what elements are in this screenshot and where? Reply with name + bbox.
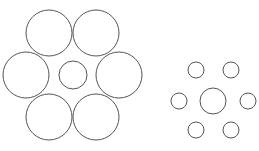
surround-circle — [223, 62, 239, 78]
surround-circle — [96, 52, 142, 98]
center-circle — [200, 88, 226, 114]
surround-circle — [171, 93, 187, 109]
surround-circle — [223, 122, 239, 138]
small-surround-group — [171, 62, 256, 138]
surround-circle — [240, 93, 256, 109]
surround-circle — [73, 94, 119, 140]
center-circle — [59, 61, 87, 89]
large-surround-group — [3, 10, 142, 140]
surround-circle — [188, 122, 204, 138]
surround-circle — [26, 94, 72, 140]
ebbinghaus-diagram — [0, 0, 259, 151]
surround-circle — [3, 52, 49, 98]
surround-circle — [73, 10, 119, 56]
surround-circle — [26, 10, 72, 56]
surround-circle — [188, 62, 204, 78]
